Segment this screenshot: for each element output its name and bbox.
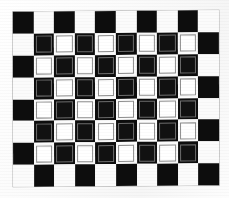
- checker-cell-r1-c0: [13, 34, 34, 56]
- checker-cell-r7-c8: [178, 163, 199, 185]
- checker-cell-r1-c6: [136, 33, 157, 55]
- checker-cell-r5-c8: [178, 120, 199, 142]
- checker-cell-r4-c9: [198, 98, 219, 120]
- checker-cell-r3-c1: [34, 77, 55, 99]
- checker-cell-r4-c3: [75, 99, 96, 121]
- checker-cell-r3-c6: [137, 76, 158, 98]
- checker-cell-r2-c2: [54, 55, 75, 77]
- checker-cell-r6-c9: [198, 141, 219, 163]
- checker-cell-r2-c1: [34, 55, 55, 77]
- checker-cell-r7-c6: [137, 164, 158, 186]
- checker-cell-r7-c9: [199, 163, 220, 185]
- checker-cell-r4-c8: [178, 98, 199, 120]
- checker-cell-r2-c7: [157, 54, 178, 76]
- checker-cell-r7-c0: [13, 165, 34, 187]
- checker-cell-r5-c3: [75, 121, 96, 143]
- checker-cell-r6-c1: [34, 143, 55, 165]
- checker-cell-r4-c2: [54, 99, 75, 121]
- checker-cell-r7-c2: [54, 164, 75, 186]
- checker-cell-r1-c2: [54, 33, 75, 55]
- checker-cell-r4-c1: [34, 99, 55, 121]
- checker-cell-r5-c9: [198, 120, 219, 142]
- checkerboard-grid: [13, 10, 219, 187]
- checker-cell-r6-c3: [75, 142, 96, 164]
- checker-cell-r7-c4: [96, 164, 117, 186]
- checker-cell-r5-c2: [54, 121, 75, 143]
- checker-cell-r0-c8: [178, 10, 199, 32]
- checker-cell-r0-c9: [198, 10, 219, 32]
- checker-cell-r3-c3: [75, 77, 96, 99]
- image-canvas: [0, 0, 229, 198]
- checker-cell-r3-c7: [157, 76, 178, 98]
- checker-cell-r2-c4: [95, 55, 116, 77]
- checker-cell-r5-c4: [95, 120, 116, 142]
- checker-cell-r2-c9: [198, 54, 219, 76]
- checker-cell-r1-c5: [116, 33, 137, 55]
- checker-cell-r7-c1: [34, 165, 55, 187]
- checker-cell-r5-c6: [137, 120, 158, 142]
- checker-cell-r7-c5: [116, 164, 137, 186]
- checker-cell-r4-c6: [137, 98, 158, 120]
- checker-cell-r4-c4: [95, 99, 116, 121]
- checker-cell-r0-c0: [13, 12, 34, 34]
- checker-cell-r3-c8: [178, 76, 199, 98]
- checker-cell-r1-c9: [198, 32, 219, 54]
- checker-cell-r4-c5: [116, 98, 137, 120]
- checker-cell-r2-c3: [75, 55, 96, 77]
- checker-cell-r0-c1: [33, 11, 54, 33]
- checker-cell-r6-c0: [13, 143, 34, 165]
- checker-cell-r3-c9: [198, 76, 219, 98]
- checker-cell-r6-c7: [157, 142, 178, 164]
- checker-cell-r6-c4: [95, 142, 116, 164]
- checker-cell-r3-c5: [116, 76, 137, 98]
- checker-cell-r3-c4: [95, 77, 116, 99]
- checker-cell-r0-c4: [95, 11, 116, 33]
- checker-cell-r3-c2: [54, 77, 75, 99]
- checker-cell-r4-c7: [157, 98, 178, 120]
- checkerboard-container: [13, 10, 219, 187]
- checker-cell-r2-c0: [13, 55, 34, 77]
- checker-cell-r0-c3: [75, 11, 96, 33]
- checker-cell-r7-c3: [75, 164, 96, 186]
- checker-cell-r2-c8: [178, 54, 199, 76]
- checker-cell-r6-c2: [54, 143, 75, 165]
- checker-cell-r0-c7: [157, 11, 178, 33]
- checker-cell-r1-c1: [33, 33, 54, 55]
- checker-cell-r0-c2: [54, 11, 75, 33]
- checker-cell-r0-c5: [116, 11, 137, 33]
- checker-cell-r6-c8: [178, 142, 199, 164]
- checker-cell-r6-c5: [116, 142, 137, 164]
- checker-cell-r5-c0: [13, 121, 34, 143]
- checker-cell-r1-c8: [178, 32, 199, 54]
- checker-cell-r3-c0: [13, 77, 34, 99]
- checker-cell-r5-c1: [34, 121, 55, 143]
- checker-cell-r1-c7: [157, 32, 178, 54]
- checker-cell-r1-c3: [75, 33, 96, 55]
- checker-cell-r7-c7: [157, 164, 178, 186]
- checker-cell-r2-c5: [116, 55, 137, 77]
- checker-cell-r2-c6: [137, 54, 158, 76]
- checker-cell-r0-c6: [136, 11, 157, 33]
- checker-cell-r5-c5: [116, 120, 137, 142]
- checker-cell-r6-c6: [137, 142, 158, 164]
- checker-cell-r4-c0: [13, 99, 34, 121]
- checker-cell-r1-c4: [95, 33, 116, 55]
- checker-cell-r5-c7: [157, 120, 178, 142]
